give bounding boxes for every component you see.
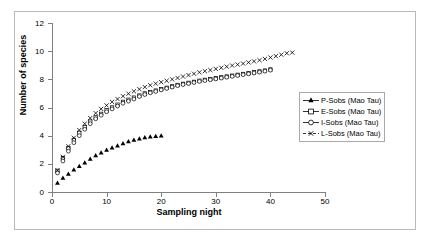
data-series-0 [55, 133, 164, 184]
legend-label: E-Sobs (Mao Tau) [320, 106, 381, 117]
data-series-svg [52, 23, 325, 192]
chart-legend: P-Sobs (Mao Tau) E-Sobs (Mao Tau) I-Sobs… [299, 92, 385, 142]
legend-item-l-sobs[interactable]: L-Sobs (Mao Tau) [302, 128, 381, 139]
data-series-2 [56, 68, 273, 175]
y-axis-title: Number of species [18, 10, 28, 140]
legend-label: I-Sobs (Mao Tau) [320, 117, 378, 128]
x-axis-line [52, 192, 326, 193]
cross-x-marker-icon [302, 128, 320, 139]
plot-area [52, 23, 325, 192]
x-tick-label: 10 [95, 197, 119, 206]
open-circle-marker-icon [302, 117, 320, 128]
x-tick-label: 20 [149, 197, 173, 206]
legend-item-e-sobs[interactable]: E-Sobs (Mao Tau) [302, 106, 381, 117]
y-tick-label: 0 [24, 188, 44, 197]
y-tick-label: 2 [24, 159, 44, 168]
x-axis-title: Sampling night [52, 207, 326, 217]
data-series-3 [55, 50, 294, 172]
legend-item-p-sobs[interactable]: P-Sobs (Mao Tau) [302, 95, 381, 106]
x-tick-label: 0 [40, 197, 64, 206]
x-tick-label: 30 [204, 197, 228, 206]
filled-triangle-marker-icon [302, 95, 320, 106]
legend-item-i-sobs[interactable]: I-Sobs (Mao Tau) [302, 117, 381, 128]
x-tick-label: 50 [313, 197, 337, 206]
legend-label: P-Sobs (Mao Tau) [320, 95, 381, 106]
open-square-marker-icon [302, 106, 320, 117]
legend-label: L-Sobs (Mao Tau) [320, 128, 380, 139]
chart-screenshot: 024681012 01020304050 Number of species … [0, 0, 431, 246]
x-tick-label: 40 [258, 197, 282, 206]
